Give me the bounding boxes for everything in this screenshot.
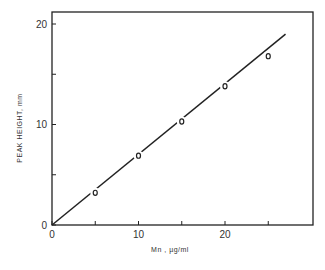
fit-line: [52, 34, 286, 225]
point-knockout: [263, 51, 273, 61]
x-axis-ticks: 01020: [49, 221, 268, 240]
x-tick-label: 20: [219, 229, 231, 240]
y-tick-label: 10: [36, 119, 48, 130]
y-axis-ticks: 01020: [36, 19, 56, 231]
point-knockout: [90, 188, 100, 198]
y-tick-label: 0: [41, 220, 47, 231]
point-knockout: [134, 151, 144, 161]
x-tick-label: 10: [133, 229, 145, 240]
y-axis-title: PEAK HEIGHT, mm: [16, 93, 23, 162]
x-tick-label: 0: [49, 229, 55, 240]
point-knockout: [220, 81, 230, 91]
data-points: [90, 51, 273, 198]
x-axis-title: Mn , µg/ml: [151, 246, 189, 254]
regression-line: [52, 34, 286, 225]
calibration-chart: 01020 01020 Mn , µg/ml PEAK HEIGHT, mm: [0, 0, 325, 270]
point-knockout: [177, 116, 187, 126]
y-tick-label: 20: [36, 19, 48, 30]
